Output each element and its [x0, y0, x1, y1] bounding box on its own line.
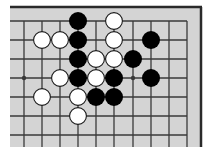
white-stone [70, 108, 87, 125]
white-stone [106, 51, 123, 68]
white-stone [106, 32, 123, 49]
black-stone [69, 69, 87, 87]
black-stone [142, 31, 160, 49]
black-stone [105, 88, 123, 106]
go-board [0, 0, 210, 158]
star-point [131, 76, 135, 80]
black-stone [124, 50, 142, 68]
white-stone [34, 89, 51, 106]
black-stone [87, 88, 105, 106]
white-stone [52, 32, 69, 49]
black-stone [105, 69, 123, 87]
white-stone [88, 51, 105, 68]
white-stone [106, 13, 123, 30]
white-stone [34, 32, 51, 49]
black-stone [69, 31, 87, 49]
black-stone [142, 69, 160, 87]
black-stone [69, 50, 87, 68]
white-stone [52, 70, 69, 87]
white-stone [70, 89, 87, 106]
black-stone [69, 12, 87, 30]
white-stone [88, 70, 105, 87]
star-point [22, 76, 26, 80]
